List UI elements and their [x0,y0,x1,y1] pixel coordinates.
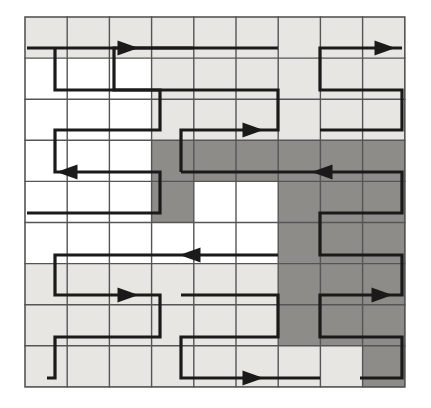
grid-cell-r3-c6-dark [278,140,321,182]
grid-cell-r0-c7-light [320,17,363,59]
grid-cell-r8-c3-light [152,346,195,388]
grid-cell-r4-c5-white [236,181,279,223]
grid-cell-r8-c7-light [320,346,363,388]
grid-cell-r2-c5-light [236,99,279,141]
grid-cell-r4-c2-white [109,181,152,223]
grid-cell-r6-c6-dark [278,264,321,306]
grid-cell-r8-c2-light [109,346,152,388]
grid-cell-r3-c0-white [25,140,68,182]
grid-cell-r4-c6-dark [278,181,321,223]
grid-cell-r4-c4-white [194,181,237,223]
shaded-cells-layer [25,17,405,388]
grid-cell-r5-c7-dark [320,223,363,265]
grid-cell-r3-c5-dark [236,140,279,182]
grid-cell-r2-c3-light [152,99,195,141]
grid-cell-r5-c5-white [236,223,279,265]
grid-cell-r6-c3-light [152,264,195,306]
grid-cell-r0-c0-light [25,17,68,59]
grid-cell-r3-c3-dark [152,140,195,182]
grid-cell-r6-c7-dark [320,264,363,306]
grid-cell-r4-c1-white [67,181,110,223]
grid-cell-r8-c8-dark [363,346,406,388]
grid-cell-r3-c4-dark [194,140,237,182]
grid-cell-r5-c6-dark [278,223,321,265]
grid-cell-r6-c0-light [25,264,68,306]
grid-cell-r4-c0-white [25,181,68,223]
grid-cell-r8-c5-light [236,346,279,388]
grid-cell-r6-c2-light [109,264,152,306]
grid-cell-r2-c0-white [25,99,68,141]
coverage-decomposition-figure [0,0,431,408]
grid-cell-r8-c6-light [278,346,321,388]
grid-cell-r5-c0-white [25,223,68,265]
grid-cell-r6-c5-light [236,264,279,306]
grid-cell-r0-c5-light [236,17,279,59]
grid-cell-r0-c4-light [194,17,237,59]
grid-cell-r2-c8-light [363,99,406,141]
grid-cell-r0-c1-light [67,17,110,59]
grid-cell-r0-c8-light [363,17,406,59]
grid-cell-r8-c4-light [194,346,237,388]
grid-cell-r7-c8-dark [363,305,406,347]
grid-cell-r1-c6-light [278,58,321,100]
grid-cell-r4-c3-dark [152,181,195,223]
grid-cell-r6-c4-light [194,264,237,306]
grid-cell-r7-c5-light [236,305,279,347]
grid-cell-r0-c2-light [109,17,152,59]
grid-cell-r8-c0-light [25,346,68,388]
grid-cell-r3-c8-dark [363,140,406,182]
grid-cell-r0-c3-light [152,17,195,59]
grid-cell-r1-c3-light [152,58,195,100]
grid-cell-r1-c0-white [25,58,68,100]
grid-cell-r7-c2-light [109,305,152,347]
grid-cell-r5-c8-dark [363,223,406,265]
grid-cell-r2-c1-white [67,99,110,141]
grid-cell-r1-c8-light [363,58,406,100]
grid-cell-r1-c7-light [320,58,363,100]
grid-cell-r7-c4-light [194,305,237,347]
grid-cell-r2-c6-light [278,99,321,141]
grid-cell-r4-c8-dark [363,181,406,223]
grid-cell-r2-c2-white [109,99,152,141]
grid-cell-r1-c1-white [67,58,110,100]
grid-cell-r2-c7-light [320,99,363,141]
grid-cell-r1-c4-light [194,58,237,100]
grid-cell-r7-c0-light [25,305,68,347]
grid-cell-r8-c1-light [67,346,110,388]
grid-cell-r6-c1-light [67,264,110,306]
grid-cell-r7-c7-dark [320,305,363,347]
grid-cell-r1-c2-white [109,58,152,100]
coverage-diagram-svg [0,0,431,408]
grid-cell-r4-c7-dark [320,181,363,223]
grid-cell-r5-c2-white [109,223,152,265]
grid-cell-r7-c6-dark [278,305,321,347]
grid-cell-r1-c5-light [236,58,279,100]
grid-cell-r7-c1-light [67,305,110,347]
grid-cell-r7-c3-light [152,305,195,347]
grid-cell-r3-c2-white [109,140,152,182]
grid-cell-r0-c6-light [278,17,321,59]
grid-cell-r5-c1-white [67,223,110,265]
grid-cell-r2-c4-light [194,99,237,141]
grid-cell-r6-c8-dark [363,264,406,306]
